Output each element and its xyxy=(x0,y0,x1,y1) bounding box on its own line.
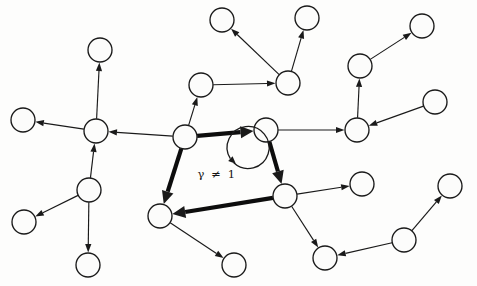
edge-arrowhead-icon xyxy=(311,239,318,248)
graph-edge xyxy=(292,206,319,247)
graph-figure: γ ≠ 1 xyxy=(0,0,477,286)
graph-node[interactable] xyxy=(313,246,337,270)
graph-edge xyxy=(278,127,344,133)
edge-line xyxy=(358,87,359,118)
graph-node[interactable] xyxy=(189,73,213,97)
graph-edge xyxy=(172,198,273,218)
edge-arrowhead-icon xyxy=(356,78,362,87)
graph-edge xyxy=(291,30,304,71)
edge-line xyxy=(412,202,436,231)
graph-canvas: γ ≠ 1 xyxy=(0,0,477,286)
graph-edge xyxy=(231,29,279,75)
graph-node[interactable] xyxy=(295,6,319,30)
edge-arrowhead-icon xyxy=(369,120,378,126)
edge-arrowhead-icon xyxy=(341,184,350,190)
edge-line xyxy=(97,71,99,119)
graph-edge xyxy=(370,33,411,60)
graph-node[interactable] xyxy=(11,108,35,132)
edge-arrowhead-icon xyxy=(337,250,346,256)
graph-edge xyxy=(412,196,442,231)
graph-edge xyxy=(90,143,96,177)
edge-arrowhead-icon xyxy=(35,210,44,217)
graph-edge xyxy=(35,195,78,216)
graph-edge xyxy=(189,97,198,125)
graph-edge xyxy=(356,78,362,117)
graph-node[interactable] xyxy=(173,125,197,149)
graph-node[interactable] xyxy=(88,38,112,62)
cycle-edge-line xyxy=(269,142,278,172)
edge-arrowhead-icon xyxy=(403,33,412,40)
edge-line xyxy=(44,123,84,129)
edge-arrowhead-icon xyxy=(298,30,304,39)
graph-edge xyxy=(96,62,102,118)
edge-arrowhead-icon xyxy=(240,126,253,138)
edge-line xyxy=(292,206,314,240)
edge-arrowhead-icon xyxy=(215,251,224,258)
edge-line xyxy=(88,202,89,244)
graph-edge xyxy=(108,129,172,136)
edge-line xyxy=(170,223,216,254)
edge-line xyxy=(213,83,267,84)
graph-node[interactable] xyxy=(348,54,372,78)
cycle-edge-line xyxy=(168,149,182,192)
graph-node[interactable] xyxy=(210,8,234,32)
graph-node[interactable] xyxy=(276,71,300,95)
graph-edge xyxy=(162,149,181,204)
edge-arrowhead-icon xyxy=(267,80,276,86)
edge-line xyxy=(117,132,173,136)
edge-line xyxy=(297,187,341,194)
graph-edge xyxy=(269,142,283,184)
edge-arrowhead-icon xyxy=(336,127,345,133)
graph-node[interactable] xyxy=(423,90,447,114)
graph-edge xyxy=(213,80,275,86)
edge-line xyxy=(90,152,93,178)
edge-line xyxy=(377,106,424,123)
graph-node[interactable] xyxy=(77,178,101,202)
graph-edge xyxy=(197,126,253,138)
graph-edge xyxy=(337,243,392,257)
edge-arrowhead-icon xyxy=(96,62,102,71)
graph-node[interactable] xyxy=(273,184,297,208)
graph-edge xyxy=(297,184,350,194)
graph-edge xyxy=(35,120,84,129)
cycle-edge-line xyxy=(185,198,273,212)
edge-arrowhead-icon xyxy=(192,97,198,106)
nodes-layer xyxy=(11,6,462,277)
edge-line xyxy=(43,195,78,212)
graph-node[interactable] xyxy=(222,253,246,277)
graph-node[interactable] xyxy=(254,118,278,142)
cycle-edge-line xyxy=(197,132,240,136)
edge-arrowhead-icon xyxy=(272,170,284,184)
graph-node[interactable] xyxy=(12,210,36,234)
graph-node[interactable] xyxy=(350,172,374,196)
graph-node[interactable] xyxy=(438,174,462,198)
edge-line xyxy=(291,38,301,71)
graph-edge xyxy=(170,223,223,258)
edge-arrowhead-icon xyxy=(85,244,91,253)
graph-node[interactable] xyxy=(76,253,100,277)
graph-node[interactable] xyxy=(84,119,108,143)
edge-line xyxy=(370,37,404,59)
edge-line xyxy=(189,105,195,125)
graph-node[interactable] xyxy=(345,118,369,142)
graph-node[interactable] xyxy=(392,228,416,252)
edge-arrowhead-icon xyxy=(162,190,173,204)
graph-edge xyxy=(85,202,91,252)
edge-line xyxy=(237,35,279,75)
edge-line xyxy=(345,243,392,254)
edge-arrowhead-icon xyxy=(90,143,96,152)
edge-arrowhead-icon xyxy=(108,129,117,135)
cycle-label: γ ≠ 1 xyxy=(197,167,236,181)
graph-node[interactable] xyxy=(148,204,172,228)
graph-node[interactable] xyxy=(410,14,434,38)
graph-edge xyxy=(369,106,424,126)
edge-arrowhead-icon xyxy=(172,206,186,218)
edge-arrowhead-icon xyxy=(35,120,44,126)
